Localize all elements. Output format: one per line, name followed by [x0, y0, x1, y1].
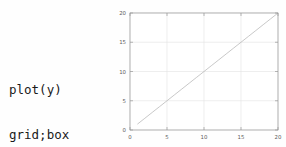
x-tick-label: 5	[165, 134, 168, 140]
y-axis-tick-labels: 05101520	[119, 10, 126, 133]
y-tick-label: 15	[119, 39, 126, 45]
y-tick-label: 0	[123, 127, 127, 133]
code-line-1: plot(y)	[9, 82, 69, 97]
x-tick-label: 20	[275, 134, 282, 140]
y-tick-label: 20	[119, 10, 126, 16]
plot-figure: 05101520 05101520	[112, 0, 286, 147]
x-tick-label: 15	[238, 134, 245, 140]
x-tick-label: 0	[128, 134, 132, 140]
code-snippet: plot(y) grid;box	[9, 52, 69, 147]
code-line-2: grid;box	[9, 127, 69, 142]
x-tick-label: 10	[201, 134, 208, 140]
plot-canvas: 05101520 05101520	[112, 0, 286, 147]
y-tick-label: 5	[123, 98, 126, 104]
y-tick-label: 10	[119, 69, 126, 75]
x-axis-tick-labels: 05101520	[128, 134, 282, 140]
figure-page: plot(y) grid;box 05101520 05101520	[0, 0, 286, 147]
